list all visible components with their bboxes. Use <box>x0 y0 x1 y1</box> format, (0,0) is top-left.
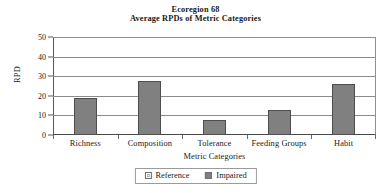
legend-label-reference: Reference <box>155 171 189 180</box>
legend-swatch-reference-icon <box>144 172 151 179</box>
y-axis: 50 40 30 20 10 0 <box>0 37 53 135</box>
legend-item-impaired: Impaired <box>205 171 246 180</box>
gridline <box>53 57 376 58</box>
x-tick-label-feeding-groups: Feeding Groups <box>247 139 312 148</box>
x-axis-title: Metric Categories <box>53 152 376 161</box>
plot-area <box>53 37 376 135</box>
x-tick-label-habit: Habit <box>311 139 376 148</box>
x-axis-labels: Richness Composition Tolerance Feeding G… <box>53 139 376 148</box>
y-axis-title: RPD <box>13 48 22 102</box>
y-tick-label: 30 <box>38 72 46 81</box>
legend-item-reference: Reference <box>144 171 189 180</box>
gridline <box>53 115 376 116</box>
y-tick-label: 50 <box>38 33 46 42</box>
legend-label-impaired: Impaired <box>216 171 246 180</box>
y-tick-label: 0 <box>42 131 46 140</box>
x-tick-label-tolerance: Tolerance <box>182 139 247 148</box>
x-tick-label-composition: Composition <box>118 139 183 148</box>
chart-figure: Ecoregion 68 Average RPDs of Metric Cate… <box>0 0 391 193</box>
plot-frame <box>53 37 376 135</box>
legend-swatch-impaired-icon <box>205 172 212 179</box>
gridline <box>53 76 376 77</box>
gridline <box>53 96 376 97</box>
y-tick-label: 10 <box>38 111 46 120</box>
x-tick-label-richness: Richness <box>53 139 118 148</box>
chart-subtitle: Average RPDs of Metric Categories <box>0 15 391 24</box>
y-tick-label: 40 <box>38 52 46 61</box>
chart-legend: Reference Impaired <box>134 168 256 184</box>
y-tick-label: 20 <box>38 91 46 100</box>
chart-title-block: Ecoregion 68 Average RPDs of Metric Cate… <box>0 6 391 24</box>
